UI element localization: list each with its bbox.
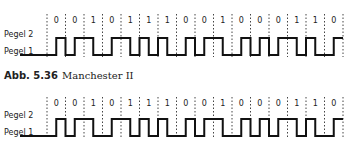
svg-text:0: 0 — [257, 16, 262, 25]
svg-text:0: 0 — [72, 99, 77, 108]
svg-text:1: 1 — [313, 16, 318, 25]
svg-text:0: 0 — [183, 16, 188, 25]
svg-text:1: 1 — [294, 99, 299, 108]
svg-text:0: 0 — [109, 99, 114, 108]
svg-text:0: 0 — [276, 99, 281, 108]
svg-text:1: 1 — [220, 16, 225, 25]
svg-text:0: 0 — [183, 99, 188, 108]
svg-text:1: 1 — [165, 99, 170, 108]
waveform: 0010111001000110 — [0, 0, 354, 60]
svg-text:1: 1 — [128, 99, 133, 108]
svg-text:1: 1 — [294, 16, 299, 25]
svg-text:0: 0 — [239, 99, 244, 108]
svg-text:0: 0 — [54, 99, 59, 108]
svg-text:1: 1 — [220, 99, 225, 108]
waveform: 0010111001000110 — [0, 97, 354, 157]
svg-text:1: 1 — [313, 99, 318, 108]
caption-title: Manchester II — [62, 70, 134, 81]
svg-text:0: 0 — [331, 16, 336, 25]
svg-text:0: 0 — [54, 16, 59, 25]
svg-text:1: 1 — [91, 99, 96, 108]
svg-text:0: 0 — [72, 16, 77, 25]
svg-text:1: 1 — [165, 16, 170, 25]
svg-text:1: 1 — [146, 99, 151, 108]
caption-number: Abb. 5.36 — [4, 70, 58, 81]
svg-text:0: 0 — [276, 16, 281, 25]
svg-text:0: 0 — [202, 16, 207, 25]
svg-text:0: 0 — [331, 99, 336, 108]
manchester-diagram-2: Pegel 2 Pegel 1 0010111001000110 — [0, 97, 354, 147]
svg-text:1: 1 — [146, 16, 151, 25]
svg-text:0: 0 — [239, 16, 244, 25]
svg-text:0: 0 — [257, 99, 262, 108]
svg-text:0: 0 — [202, 99, 207, 108]
svg-text:1: 1 — [128, 16, 133, 25]
svg-text:0: 0 — [109, 16, 114, 25]
manchester-diagram-1: Pegel 2 Pegel 1 0010111001000110 — [0, 0, 354, 50]
svg-text:1: 1 — [91, 16, 96, 25]
figure-caption: Abb. 5.36Manchester II — [4, 70, 134, 81]
